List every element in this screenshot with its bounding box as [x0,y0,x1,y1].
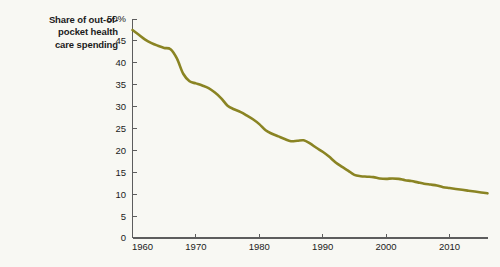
y-axis-tick-label: 35 [115,79,126,90]
data-series-line [133,30,488,193]
y-axis-tick-labels: 05101520253035404550% [107,13,127,243]
x-axis-tick-label: 2010 [439,241,460,252]
y-axis-tick-label: 10 [115,189,126,200]
x-axis-tick-label: 1970 [185,241,206,252]
y-axis-tick-label: 5 [121,211,126,222]
x-axis-tick-label: 1980 [249,241,270,252]
x-axis-tick-marks [196,234,450,238]
y-axis-tick-label: 45 [115,35,126,46]
y-axis-tick-label: 50% [107,13,127,24]
line-chart-plot: 05101520253035404550% 196019701980199020… [0,0,500,267]
x-axis-tick-label: 2000 [376,241,397,252]
y-axis-tick-label: 15 [115,167,126,178]
y-axis-tick-marks [133,19,137,238]
y-axis-tick-label: 0 [121,232,126,243]
y-axis-tick-label: 25 [115,123,126,134]
x-axis-tick-label: 1960 [132,241,153,252]
chart-figure: Share of out-of- pocket health care spen… [0,0,500,267]
y-axis-tick-label: 40 [115,57,126,68]
y-axis-tick-label: 20 [115,145,126,156]
x-axis-tick-label: 1990 [312,241,333,252]
y-axis-tick-label: 30 [115,101,126,112]
x-axis-tick-labels: 196019701980199020002010 [132,241,460,252]
